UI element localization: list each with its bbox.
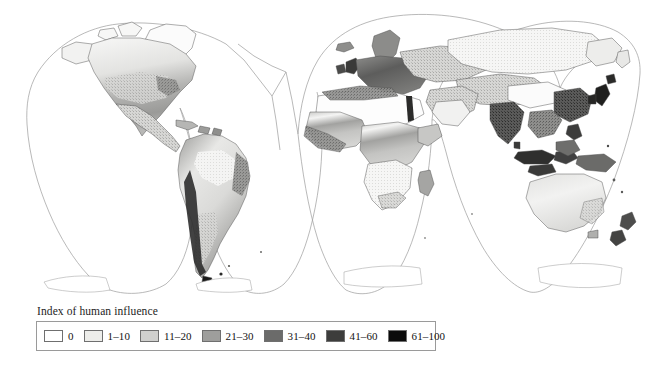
world-map <box>0 0 657 305</box>
legend-label-3: 21–30 <box>226 330 254 342</box>
legend-label-0: 0 <box>68 330 74 342</box>
legend-item-6: 61–100 <box>388 330 446 342</box>
legend-item-4: 31–40 <box>264 330 316 342</box>
legend-swatch-icon-0 <box>44 330 63 342</box>
legend-item-5: 41–60 <box>326 330 378 342</box>
legend-swatch-row: 0 1–10 11–20 21–30 31–40 41–60 <box>36 321 436 351</box>
legend-label-4: 31–40 <box>288 330 316 342</box>
world-map-svg <box>0 0 657 305</box>
legend-swatch-icon-1 <box>84 330 103 342</box>
legend-label-5: 41–60 <box>350 330 378 342</box>
legend-swatch-icon-3 <box>202 330 221 342</box>
legend-swatch-icon-6 <box>388 330 407 342</box>
legend-item-2: 11–20 <box>140 330 192 342</box>
legend-item-1: 1–10 <box>84 330 130 342</box>
legend-label-6: 61–100 <box>412 330 446 342</box>
legend-swatch-icon-2 <box>140 330 159 342</box>
legend-swatch-icon-5 <box>326 330 345 342</box>
legend-label-1: 1–10 <box>108 330 130 342</box>
legend-label-2: 11–20 <box>164 330 192 342</box>
map-legend: Index of human influence 0 1–10 11–20 21… <box>36 304 436 351</box>
figure-human-influence-map: Index of human influence 0 1–10 11–20 21… <box>0 0 657 375</box>
legend-item-0: 0 <box>44 330 74 342</box>
legend-swatch-icon-4 <box>264 330 283 342</box>
legend-title: Index of human influence <box>36 304 436 318</box>
legend-item-3: 21–30 <box>202 330 254 342</box>
